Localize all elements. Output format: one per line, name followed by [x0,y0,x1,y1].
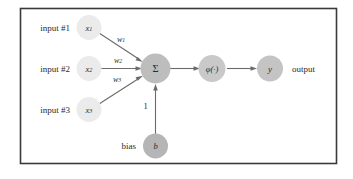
summation-node-label: Σ [152,63,158,74]
input-3-caption: input #3 [40,105,70,115]
bias-node-label: b [153,141,157,151]
bias-caption: bias [122,141,137,151]
edge-bias-to-sum [153,84,158,134]
input-2-caption: input #2 [40,64,70,74]
output-caption: output [292,64,316,74]
activation-node-label: φ(·) [206,64,219,74]
bias-weight-label: 1 [143,101,147,111]
edge-sum-to-activation [170,66,200,70]
output-node-label: y [267,64,272,74]
weight-label-2: w2 [114,56,122,65]
edge-activation-to-output [227,66,257,70]
edge-input-2-to-sum [99,66,142,70]
diagram-canvas: x1 x2 x3 input #1 input #2 input #3 w1 w… [0,0,353,179]
perceptron-diagram: x1 x2 x3 input #1 input #2 input #3 w1 w… [0,0,353,179]
input-1-caption: input #1 [40,23,70,33]
weight-label-1: w1 [117,35,125,44]
weight-label-3: w3 [113,75,121,84]
